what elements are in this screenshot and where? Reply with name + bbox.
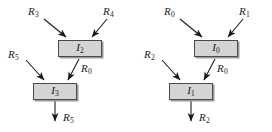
arrow-input-c: [26, 60, 44, 80]
arrow-input-b: [228, 19, 243, 37]
node-lower-label: I3: [51, 85, 59, 98]
edge-label-input-a: R0: [164, 6, 175, 19]
figure-canvas: I2 I3 R3 R4 R5 R0 R5 I: [0, 0, 272, 132]
edge-label-output: R5: [63, 112, 74, 125]
edge-label-output: R2: [199, 112, 210, 125]
arrow-input-c: [162, 60, 180, 80]
node-lower[interactable]: I3: [33, 83, 77, 100]
edge-label-input-c: R5: [8, 49, 19, 62]
dependency-graph-left: I2 I3 R3 R4 R5 R0 R5: [0, 0, 136, 132]
edge-label-middle: R0: [217, 63, 228, 76]
arrow-input-a: [44, 19, 66, 37]
node-lower-label: I1: [187, 85, 195, 98]
edge-label-input-b: R1: [239, 6, 250, 19]
edge-label-input-a: R3: [28, 6, 39, 19]
node-upper[interactable]: I0: [194, 40, 238, 57]
arrow-middle: [68, 59, 79, 80]
node-lower[interactable]: I1: [169, 83, 213, 100]
edge-label-middle: R0: [81, 63, 92, 76]
dependency-graph-right: I0 I1 R0 R1 R2 R0 R2: [136, 0, 272, 132]
node-upper[interactable]: I2: [58, 40, 102, 57]
node-upper-label: I2: [76, 42, 84, 55]
arrow-middle: [204, 59, 215, 80]
node-upper-label: I0: [212, 42, 220, 55]
arrow-input-b: [92, 19, 107, 37]
edge-label-input-b: R4: [103, 6, 114, 19]
edge-label-input-c: R2: [144, 49, 155, 62]
arrow-input-a: [180, 19, 202, 37]
